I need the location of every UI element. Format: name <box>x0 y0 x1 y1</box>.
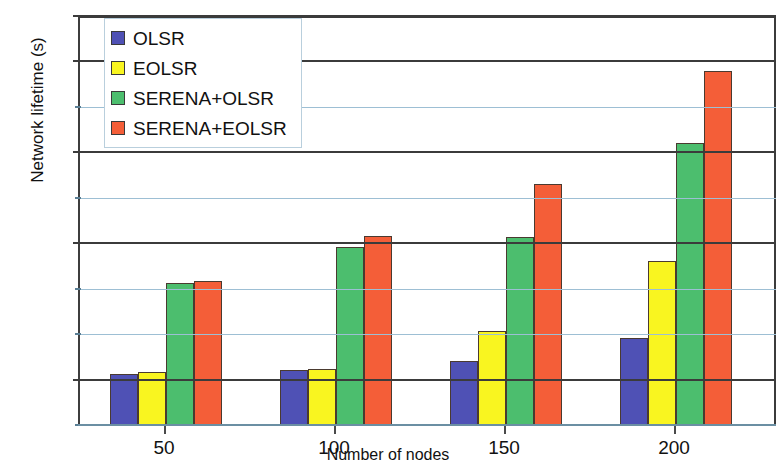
grid-line <box>80 242 776 244</box>
x-tick-label: 150 <box>464 437 544 459</box>
legend: OLSR EOLSR SERENA+OLSR SERENA+EOLSR <box>104 18 302 148</box>
legend-label-eolsr: EOLSR <box>133 59 197 78</box>
x-tick-mark <box>164 426 166 434</box>
legend-item: EOLSR <box>111 53 295 83</box>
legend-item: SERENA+EOLSR <box>111 113 295 143</box>
bar <box>336 247 364 425</box>
y-tick-mark <box>75 288 81 290</box>
grid-line <box>80 289 776 290</box>
legend-swatch-olsr <box>111 31 125 45</box>
grid-line <box>80 198 776 199</box>
grid-line <box>80 15 776 17</box>
legend-swatch-eolsr <box>111 61 125 75</box>
x-tick-mark <box>334 426 336 434</box>
bar <box>194 281 222 426</box>
grid-line <box>80 334 776 335</box>
x-tick-label: 50 <box>124 437 204 459</box>
y-tick-mark <box>73 379 81 381</box>
y-tick-mark <box>75 197 81 199</box>
bar <box>620 338 648 425</box>
bar <box>704 71 732 425</box>
y-tick-mark <box>73 242 81 244</box>
legend-label-serena-olsr: SERENA+OLSR <box>133 89 274 108</box>
bar <box>166 283 194 425</box>
x-tick-mark <box>674 426 676 434</box>
bar <box>308 369 336 425</box>
y-tick-mark <box>73 151 81 153</box>
bar <box>676 143 704 425</box>
legend-item: OLSR <box>111 23 295 53</box>
bar <box>450 361 478 425</box>
bar <box>534 184 562 425</box>
bar <box>648 261 676 425</box>
grid-line <box>80 151 776 153</box>
x-axis-line <box>78 424 776 426</box>
y-tick-mark <box>75 333 81 335</box>
bar-chart: Network lifetime (s) OLSR EOLSR SERENA+O… <box>0 0 776 474</box>
y-tick-mark <box>73 60 81 62</box>
bar <box>364 236 392 425</box>
grid-line <box>80 379 776 381</box>
legend-swatch-serena-eolsr <box>111 121 125 135</box>
x-tick-mark <box>504 426 506 434</box>
y-tick-mark <box>73 15 81 17</box>
bar <box>110 374 138 425</box>
legend-label-olsr: OLSR <box>133 29 185 48</box>
legend-label-serena-eolsr: SERENA+EOLSR <box>133 119 287 138</box>
legend-item: SERENA+OLSR <box>111 83 295 113</box>
y-tick-mark <box>75 106 81 108</box>
x-tick-label: 200 <box>634 437 714 459</box>
legend-swatch-serena-olsr <box>111 91 125 105</box>
x-tick-label: 100 <box>294 437 374 459</box>
bar <box>506 237 534 425</box>
y-axis-title: Network lifetime (s) <box>28 0 48 240</box>
